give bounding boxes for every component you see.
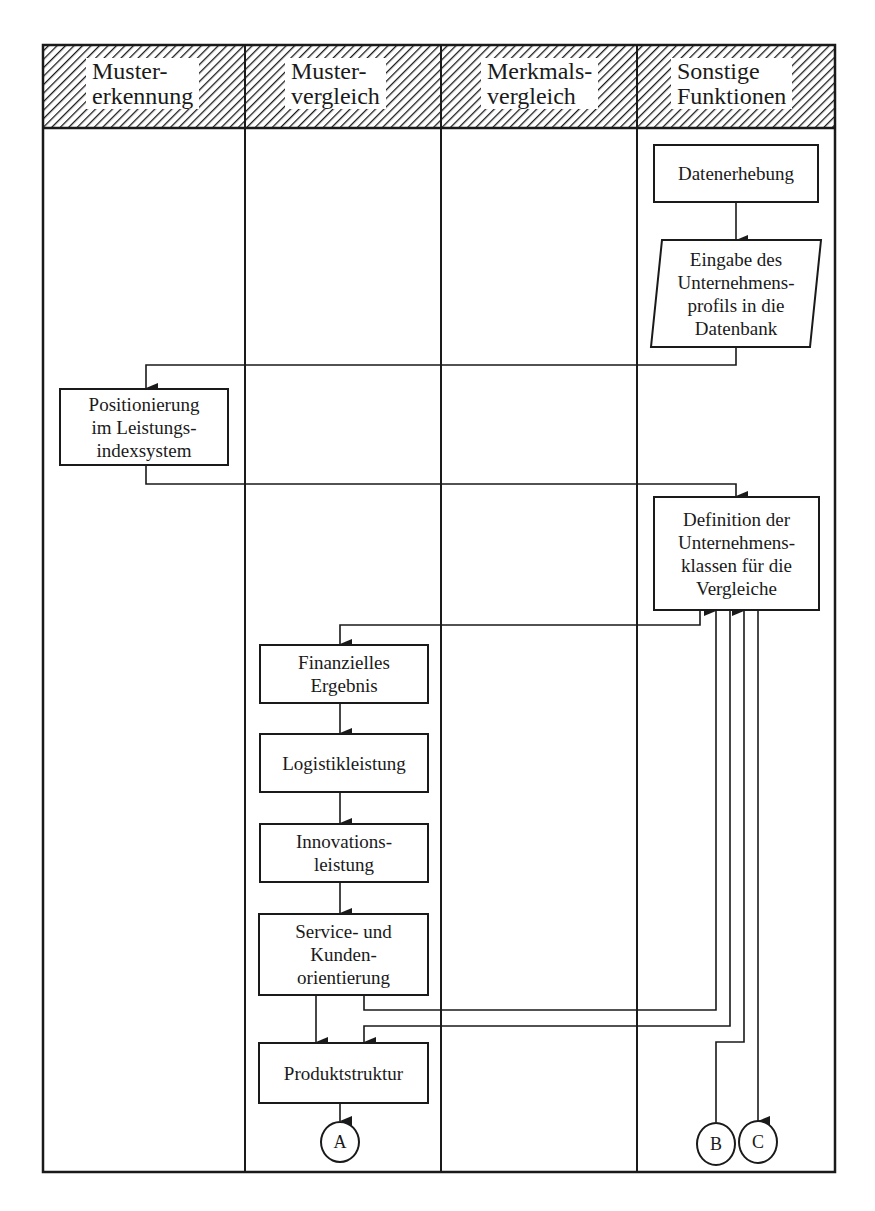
node-innovationsleistung: Innovations- leistung [259,823,429,883]
lane-header-sonstige-funktionen: Sonstige Funktionen [671,58,792,109]
lane-header-mustervergleich: Muster- vergleich [285,58,386,109]
connector-c: C [738,1120,778,1164]
edge-definition-finanzielles [340,610,700,644]
lane-header-merkmalsvergleich: Merkmals- vergleich [481,58,598,109]
node-service-kundenorientierung: Service- und Kunden- orientierung [258,913,429,996]
node-positionierung: Positionierung im Leistungs- indexsystem [59,388,229,466]
lane-header-mustererkennung: Muster- erkennung [86,58,199,109]
node-produktstruktur: Produktstruktur [258,1042,429,1104]
node-finanzielles-ergebnis: Finanzielles Ergebnis [259,644,429,704]
connector-b: B [696,1122,736,1166]
node-eingabe: Eingabe des Unternehmens- profils in die… [656,242,816,346]
node-definition: Definition der Unternehmens- klassen für… [653,496,820,611]
connector-a: A [320,1121,360,1163]
swimlane-diagram: Muster- erkennung Muster- vergleich Merk… [0,0,875,1211]
node-datenerhebung: Datenerhebung [653,144,819,203]
node-logistikleistung: Logistikleistung [259,733,429,793]
